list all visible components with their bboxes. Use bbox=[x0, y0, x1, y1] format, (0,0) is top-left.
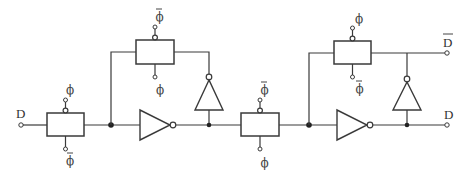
gate-1-top-clock-label: ϕ bbox=[66, 83, 74, 97]
feedback-gate-2-top-pin bbox=[351, 26, 355, 30]
gate-1-top-bubble bbox=[63, 108, 68, 113]
feedback-inverter-1 bbox=[195, 80, 223, 110]
wire-feedback-1-left bbox=[111, 52, 136, 125]
wire-feedback-2-left bbox=[309, 53, 334, 125]
input-label-d: D bbox=[16, 106, 25, 121]
output-pin-d bbox=[445, 123, 449, 127]
forward-inverter-2 bbox=[337, 110, 367, 140]
node-4 bbox=[405, 123, 410, 128]
feedback-gate-1-bottom-pin bbox=[153, 75, 157, 79]
output-pin-dbar bbox=[445, 51, 449, 55]
feedback-gate-1 bbox=[136, 40, 174, 64]
forward-inverter-1 bbox=[140, 110, 170, 140]
node-2 bbox=[207, 123, 212, 128]
feedback-gate-2-bottom-pin bbox=[351, 75, 355, 79]
input-pin-d bbox=[19, 123, 23, 127]
feedback-gate-1-top-bubble bbox=[153, 35, 158, 40]
transmission-gate-2 bbox=[241, 113, 279, 136]
wire-feedback-1-right bbox=[174, 52, 209, 74]
feedback-gate-2 bbox=[334, 41, 371, 64]
gate-2-top-pin bbox=[258, 98, 262, 102]
feedback-gate-2-top-clock-label: ϕ bbox=[355, 12, 363, 26]
forward-inverter-2-bubble bbox=[367, 122, 373, 128]
feedback-inverter-2 bbox=[393, 82, 421, 110]
feedback-gate-1-bottom-clock-label: ϕ bbox=[156, 83, 164, 97]
gate-1-bottom-clock-label: ϕ bbox=[66, 154, 74, 168]
gate-1-top-pin bbox=[64, 98, 68, 102]
gate-1-bottom-pin bbox=[64, 147, 68, 151]
feedback-gate-1-top-pin bbox=[153, 25, 157, 29]
gate-2-bottom-clock-label: ϕ bbox=[261, 156, 269, 170]
output-label-d: D bbox=[444, 107, 453, 122]
forward-inverter-1-bubble bbox=[170, 122, 176, 128]
feedback-gate-2-top-bubble bbox=[350, 36, 355, 41]
circuit-diagram: D ϕ ϕ ϕ ϕ ϕ ϕ ϕ bbox=[0, 0, 474, 178]
feedback-gate-1-top-clock-label: ϕ bbox=[156, 10, 164, 24]
gate-2-top-bubble bbox=[258, 108, 263, 113]
feedback-gate-2-bottom-clock-label: ϕ bbox=[356, 82, 364, 96]
gate-2-top-clock-label: ϕ bbox=[261, 83, 269, 97]
gate-2-bottom-pin bbox=[258, 147, 262, 151]
output-label-dbar: D bbox=[443, 35, 452, 50]
transmission-gate-1 bbox=[47, 113, 84, 136]
